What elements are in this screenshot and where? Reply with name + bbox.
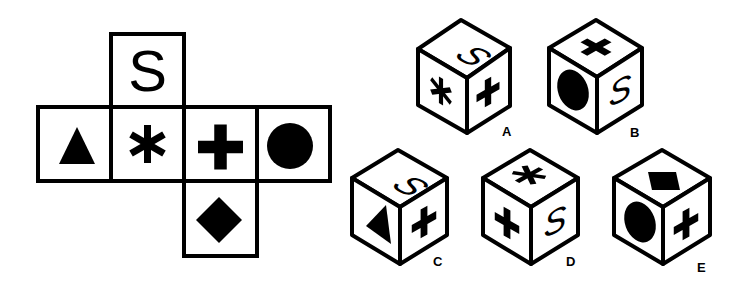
cube-net: S <box>38 34 330 256</box>
net-cell-center-left <box>111 107 184 181</box>
net-cell-top: S <box>111 34 184 107</box>
diamond-icon <box>648 172 680 190</box>
option-label-a: A <box>502 124 512 139</box>
cube-puzzle-figure: S S A <box>0 0 747 286</box>
circle-icon <box>267 123 313 169</box>
option-cube-c[interactable]: S C <box>352 150 447 269</box>
option-cube-b[interactable]: S B <box>549 20 642 140</box>
option-cube-d[interactable]: S D <box>483 150 578 269</box>
option-cube-e[interactable]: E <box>614 150 710 275</box>
letter-s-icon: S <box>128 38 167 103</box>
net-cell-center-right <box>184 107 257 181</box>
option-cube-a[interactable]: S A <box>418 20 512 139</box>
net-cell-right <box>257 107 330 181</box>
option-label-c: C <box>433 254 443 269</box>
option-label-e: E <box>697 260 706 275</box>
option-label-d: D <box>566 254 575 269</box>
option-label-b: B <box>630 125 639 140</box>
net-cell-bottom <box>184 181 257 256</box>
net-cell-left <box>38 107 111 181</box>
